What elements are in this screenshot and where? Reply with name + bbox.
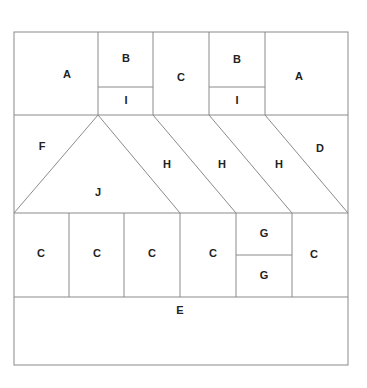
piece-label: J xyxy=(95,186,101,198)
piece-label: H xyxy=(275,158,283,170)
piece-label: G xyxy=(260,269,269,281)
piece-label: E xyxy=(176,304,183,316)
piece-label: C xyxy=(148,247,156,259)
piece-label: H xyxy=(163,158,171,170)
seam-line-diag-j-left xyxy=(14,115,98,213)
piece-label: B xyxy=(122,52,130,64)
piece-label: B xyxy=(233,53,241,65)
piece-label: C xyxy=(310,248,318,260)
piece-label: A xyxy=(295,70,303,82)
quilt-diagram: ABICBIAFHHHDJCCCCGGCE xyxy=(0,0,367,388)
piece-label: C xyxy=(177,71,185,83)
piece-label: D xyxy=(316,142,324,154)
piece-label: I xyxy=(235,94,238,106)
piece-label: G xyxy=(260,227,269,239)
piece-label: I xyxy=(124,94,127,106)
piece-label: F xyxy=(39,140,46,152)
piece-label: C xyxy=(209,247,217,259)
piece-label: H xyxy=(218,158,226,170)
piece-label: C xyxy=(93,247,101,259)
piece-labels: ABICBIAFHHHDJCCCCGGCE xyxy=(37,52,324,316)
piece-label: A xyxy=(63,68,71,80)
piece-label: C xyxy=(37,247,45,259)
